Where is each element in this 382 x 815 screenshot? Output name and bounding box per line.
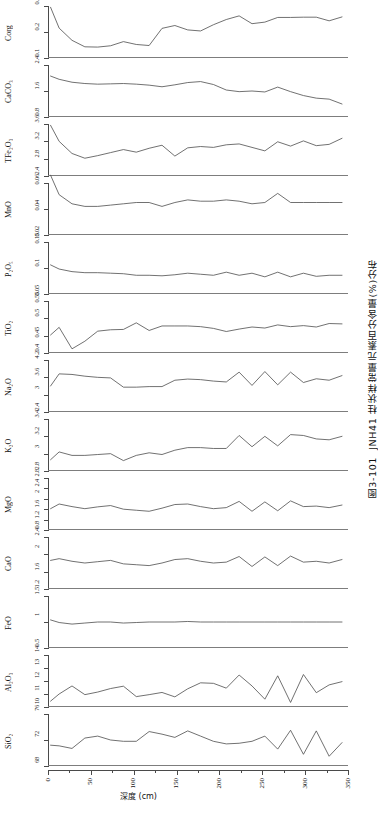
figure-caption: 图3-101 JNH41 柱状样常量元素百分含量(%)分布 xyxy=(366,258,380,498)
y-tick xyxy=(44,294,49,295)
panel-al2o3: 1011121314Al₂O₃ xyxy=(0,655,348,707)
series-na2o xyxy=(48,360,348,412)
y-tick-label: 72 xyxy=(34,731,40,737)
panel-caco3: 0.81.62.4CaCO₃ xyxy=(0,65,348,117)
x-tick-minor xyxy=(69,770,70,773)
series-al2o3 xyxy=(48,655,348,707)
y-tick-label: 1.5 xyxy=(34,587,40,594)
x-tick xyxy=(91,770,92,775)
y-tick xyxy=(44,117,49,118)
x-tick-label: 300 xyxy=(302,778,309,789)
y-tick-label: 3.6 xyxy=(34,368,40,375)
plot-area-sio2: 687276 xyxy=(48,714,348,766)
panel-k2o: 2.833.23.4K₂O xyxy=(0,419,348,471)
x-tick-minor xyxy=(241,770,242,773)
depth-axis-title: 深度 (cm) xyxy=(120,790,157,801)
y-tick-label: 2.8 xyxy=(34,150,40,157)
plot-area-feo: 0.511.5 xyxy=(48,596,348,648)
series-mgo xyxy=(48,478,348,530)
y-tick-label: 1 xyxy=(34,613,40,616)
panel-label-mno: MnO xyxy=(4,187,13,233)
series-tio2 xyxy=(48,301,348,353)
x-tick-label: 350 xyxy=(345,778,352,789)
plot-area-mno: 0.020.040.06 xyxy=(48,183,348,235)
panel-feo: 0.511.5FeO xyxy=(0,596,348,648)
series-path xyxy=(51,675,342,703)
plot-area-cao: 1.21.622.4 xyxy=(48,537,348,589)
y-tick xyxy=(44,412,49,413)
series-path xyxy=(51,7,342,47)
x-tick-minor xyxy=(198,770,199,773)
y-tick xyxy=(44,648,49,649)
y-tick xyxy=(44,353,49,354)
series-path xyxy=(51,265,342,277)
y-tick-label: 2 xyxy=(34,490,40,493)
y-tick xyxy=(44,530,49,531)
y-tick-label: 2.4 xyxy=(34,56,40,63)
y-tick xyxy=(44,58,49,59)
panel-cao: 1.21.622.4CaO xyxy=(0,537,348,589)
y-tick-label: 3 xyxy=(34,445,40,448)
panel-label-cao: CaO xyxy=(4,541,13,587)
y-tick-label: 11 xyxy=(34,685,40,691)
plot-area-caco3: 0.81.62.4 xyxy=(48,65,348,117)
panel-sio2: 687276SiO₂ xyxy=(0,714,348,766)
plot-area-p2o5: 0.050.10.15 xyxy=(48,242,348,294)
panel-label-mgo: MgO xyxy=(4,482,13,528)
series-path xyxy=(51,435,342,461)
x-tick-minor xyxy=(155,770,156,773)
y-tick-label: 3.2 xyxy=(34,132,40,139)
x-tick-minor xyxy=(112,770,113,773)
x-tick-minor xyxy=(327,770,328,773)
panel-tio2: 0.40.450.50.55TiO₂ xyxy=(0,301,348,353)
x-tick-label: 0 xyxy=(45,778,52,782)
y-tick-label: 3.2 xyxy=(34,427,40,434)
series-path xyxy=(51,730,342,756)
y-tick xyxy=(44,589,49,590)
y-tick-label: 1.6 xyxy=(34,82,40,89)
panel-label-corg: Corg xyxy=(4,10,13,56)
y-tick-label: 0.15 xyxy=(34,233,40,243)
figure-number: 图3-101 xyxy=(367,457,378,498)
x-tick-label: 50 xyxy=(87,778,94,785)
y-tick-label: 2.4 xyxy=(34,528,40,535)
x-tick-label: 200 xyxy=(216,778,223,789)
panel-p2o5: 0.050.10.15P₂O₅ xyxy=(0,242,348,294)
y-tick-label: 2 xyxy=(34,545,40,548)
plot-area-mgo: 0.81.21.622.42.8 xyxy=(48,478,348,530)
series-path xyxy=(51,125,342,158)
panel-label-al2o3: Al₂O₃ xyxy=(4,659,13,705)
y-tick-label: 2.4 xyxy=(34,479,40,486)
series-path xyxy=(51,175,342,206)
x-tick-minor xyxy=(284,770,285,773)
y-tick-label: 0.06 xyxy=(34,174,40,184)
series-cao xyxy=(48,537,348,589)
y-tick-label: 1.2 xyxy=(34,511,40,518)
plot-area-al2o3: 1011121314 xyxy=(48,655,348,707)
panel-label-k2o: K₂O xyxy=(4,423,13,469)
depth-axis: 050100150200250300350 xyxy=(48,770,348,815)
x-tick xyxy=(48,770,49,775)
panel-corg: 0.10.20.3Corg xyxy=(0,6,348,58)
x-tick xyxy=(134,770,135,775)
y-tick-label: 0.55 xyxy=(34,292,40,302)
y-tick xyxy=(44,176,49,177)
y-tick-label: 3.6 xyxy=(34,115,40,122)
series-tfe2o3 xyxy=(48,124,348,176)
series-corg xyxy=(48,6,348,58)
panel-mgo: 0.81.21.622.42.8MgO xyxy=(0,478,348,530)
y-tick-label: 68 xyxy=(34,757,40,763)
y-tick xyxy=(44,707,49,708)
y-tick-label: 0.2 xyxy=(34,23,40,30)
y-tick-label: 3.4 xyxy=(34,410,40,417)
x-tick xyxy=(348,770,349,775)
panel-mno: 0.020.040.06MnO xyxy=(0,183,348,235)
panel-stack: 0.10.20.3Corg0.81.62.4CaCO₃2.42.83.23.6T… xyxy=(0,0,348,770)
panel-label-caco3: CaCO₃ xyxy=(4,69,13,115)
y-tick-label: 2.8 xyxy=(34,469,40,476)
y-tick xyxy=(44,235,49,236)
y-tick xyxy=(44,471,49,472)
panel-tfe2o3: 2.42.83.23.6TFe₂O₃ xyxy=(0,124,348,176)
panel-label-p2o5: P₂O₅ xyxy=(4,246,13,292)
x-tick xyxy=(305,770,306,775)
